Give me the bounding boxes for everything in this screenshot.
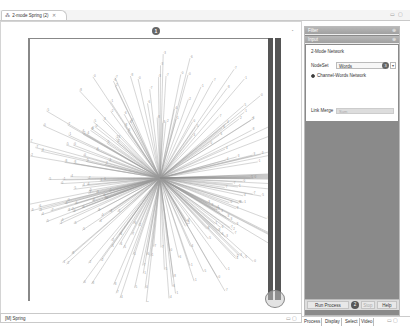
stop-button[interactable]: Stop	[361, 301, 375, 309]
nodeset-label: NodeSet	[311, 63, 329, 68]
node-bar-1	[268, 38, 273, 300]
link-merge-label: Link Merge	[311, 108, 333, 113]
filter-header[interactable]: Filter ⊕	[305, 27, 399, 35]
control-panel: Filter ⊕ Input ⊕ 2-Mode Network NodeSet …	[304, 26, 400, 316]
radio-label: Channel-Words Network	[317, 73, 366, 78]
graph-frame	[28, 38, 273, 301]
step-badge-2: 2	[351, 301, 359, 309]
nodeset-select[interactable]: Words	[336, 62, 386, 69]
scroll-indicator: ▪	[292, 28, 293, 33]
tab-select[interactable]: Select	[344, 318, 360, 326]
node-cluster	[265, 290, 285, 308]
window-controls[interactable]: ▭ ▢	[390, 11, 404, 17]
status-label: [M] Spring	[5, 316, 26, 321]
network-icon: ⁂	[5, 13, 10, 18]
help-button[interactable]: Help	[377, 301, 397, 309]
tab-process[interactable]: Process	[303, 318, 322, 326]
input-label: Input	[308, 37, 318, 42]
link-merge-field[interactable]: Sum	[336, 108, 394, 114]
expand-icon[interactable]: ⊕	[392, 36, 396, 44]
status-controls[interactable]: ▭ ▢	[286, 314, 297, 323]
input-header[interactable]: Input ⊕	[305, 36, 399, 44]
filter-label: Filter	[308, 28, 318, 33]
close-icon[interactable]: ✕	[52, 13, 56, 18]
panel-tab-controls[interactable]: ▭ ▢	[387, 318, 398, 323]
tab-display[interactable]: Display	[324, 318, 342, 326]
step-badge-3: 3	[382, 62, 389, 69]
node-column-bars	[268, 38, 282, 300]
button-row: Run Process 2 Stop Help	[305, 299, 399, 310]
panel-tabs: Process Display Select Video ▭ ▢	[302, 316, 410, 327]
node-bar-2	[275, 38, 281, 300]
tab-2-mode-spring[interactable]: ⁂ 2-mode Spring (2) ✕	[1, 10, 67, 20]
channel-words-radio[interactable]	[311, 74, 315, 78]
status-tab[interactable]: [M] Spring ▭ ▢	[0, 313, 302, 323]
tab-video[interactable]: Video	[360, 318, 374, 326]
expand-icon[interactable]: ⊕	[392, 27, 396, 35]
input-section: 2-Mode Network NodeSet Words 3 ▾ Channel…	[306, 45, 398, 121]
empty-panel-area	[306, 122, 398, 298]
chevron-down-icon[interactable]: ▾	[390, 62, 396, 69]
tab-title: 2-mode Spring (2)	[12, 13, 48, 18]
run-process-button[interactable]: Run Process	[307, 301, 349, 309]
step-badge-1: 1	[152, 27, 160, 35]
network-type-label: 2-Mode Network	[311, 49, 344, 54]
